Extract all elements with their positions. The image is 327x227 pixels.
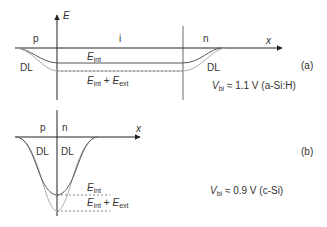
region-n-a: n — [203, 33, 209, 44]
region-n-b: n — [62, 122, 68, 133]
e-int-label-a: Eint — [87, 51, 101, 63]
e-int-label-b: Eint — [87, 182, 101, 194]
panel-tag-a: (a) — [301, 60, 313, 71]
vbi-label-a: Vbi ≈ 1.1 V (a-Si:H) — [212, 80, 296, 92]
region-p-a: p — [33, 33, 39, 44]
panel-tag-b: (b) — [301, 146, 313, 157]
e-sum-label-b: Eint + Eext — [87, 197, 129, 209]
dl-left-a: DL — [20, 62, 33, 73]
e-sum-curve-a — [15, 48, 226, 71]
region-p-b: p — [40, 122, 46, 133]
region-i-a: i — [119, 33, 121, 44]
vbi-label-b: Vbi ≈ 0.9 V (c-Si) — [210, 185, 283, 197]
e-sum-label-a: Eint + Eext — [87, 75, 129, 87]
e-axis-label: E — [63, 10, 70, 21]
x-axis-label-a: x — [265, 35, 272, 46]
dl-right-a: DL — [207, 62, 220, 73]
x-axis-label-b: x — [135, 123, 142, 134]
dl-left-b: DL — [36, 146, 49, 157]
panel-a: E x p i n DL DL Eint Eint + Eext (a) Vbi… — [15, 10, 313, 100]
panel-b: x p n DL DL Eint Eint + Eext (b) Vbi ≈ 0… — [15, 110, 313, 216]
e-int-curve-a — [15, 48, 222, 63]
dl-right-b: DL — [61, 146, 74, 157]
band-diagram: E x p i n DL DL Eint Eint + Eext (a) Vbi… — [0, 0, 327, 227]
